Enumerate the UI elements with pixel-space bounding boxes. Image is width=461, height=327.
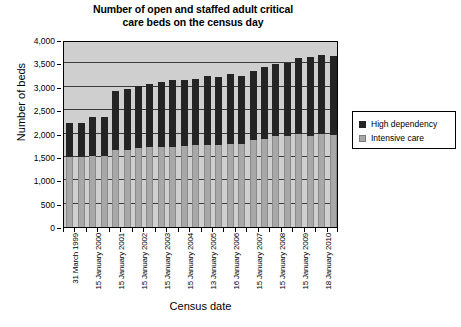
bar-segment-high-dependency: [89, 117, 96, 157]
x-axis-tick-mark: [86, 228, 87, 232]
x-axis-tick-mark: [201, 228, 202, 232]
bar-column: [284, 63, 291, 227]
bar-column: [146, 84, 153, 227]
x-axis-title: Census date: [63, 300, 338, 312]
y-axis-tick-label: 3,500: [34, 59, 55, 69]
x-axis-tick-label: 15 January 2004: [186, 233, 195, 290]
x-axis-tick-label: 15 January 2003: [163, 233, 172, 290]
chart-title-line-2: care beds on the census day: [48, 16, 338, 29]
light-square-swatch-icon: [359, 135, 366, 142]
bar-segment-intensive-care: [89, 156, 96, 227]
x-axis-tick-mark: [304, 228, 305, 232]
bar-column: [307, 57, 314, 227]
x-axis-tick-mark: [327, 228, 328, 232]
bar-segment-intensive-care: [307, 136, 314, 227]
legend-item-intensive-care: Intensive care: [359, 133, 451, 143]
x-axis-tick-label: 31 March 1999: [71, 233, 80, 284]
bar-segment-intensive-care: [192, 145, 199, 227]
bar-column: [227, 74, 234, 227]
chart-title-line-1: Number of open and staffed adult critica…: [48, 3, 338, 16]
x-axis-tick-mark: [74, 228, 75, 232]
bar-segment-high-dependency: [295, 58, 302, 134]
y-axis-labels: 4,0003,5003,0002,5002,0001,5001,0005000: [0, 41, 61, 228]
bar-column: [135, 86, 142, 227]
x-axis-tick-mark: [132, 228, 133, 232]
bar-segment-high-dependency: [318, 55, 325, 134]
bar-segment-intensive-care: [101, 156, 108, 227]
bar-column: [101, 117, 108, 227]
y-axis-tick-mark: [57, 158, 61, 159]
bar-segment-intensive-care: [295, 134, 302, 227]
bar-column: [330, 56, 337, 227]
x-axis-tick-label: 15 January 2009: [301, 233, 310, 290]
x-axis-tick-mark: [143, 228, 144, 232]
bar-column: [112, 91, 119, 227]
chart-title: Number of open and staffed adult critica…: [48, 3, 338, 29]
y-axis-tick-mark: [57, 205, 61, 206]
legend-label: High dependency: [371, 119, 437, 129]
bar-segment-high-dependency: [66, 123, 73, 157]
y-axis-tick-label: 1,500: [34, 153, 55, 163]
x-axis-labels: 31 March 199915 January 200015 January 2…: [63, 233, 338, 295]
bar-column: [89, 117, 96, 227]
x-axis-tick-mark: [97, 228, 98, 232]
x-axis-tick-mark: [189, 228, 190, 232]
x-axis-tick-mark: [212, 228, 213, 232]
bar-segment-intensive-care: [169, 147, 176, 227]
bar-segment-high-dependency: [204, 76, 211, 145]
bar-column: [295, 58, 302, 227]
bar-segment-intensive-care: [284, 136, 291, 227]
x-axis-tick-label: 15 January 2002: [140, 233, 149, 290]
y-axis-tick-mark: [57, 181, 61, 182]
bars-layer: [64, 42, 337, 227]
x-axis-tick-label: 15 January 2007: [255, 233, 264, 290]
y-axis-tick-mark: [57, 111, 61, 112]
x-axis-tick-mark: [258, 228, 259, 232]
bar-segment-high-dependency: [181, 80, 188, 146]
bar-column: [215, 77, 222, 227]
x-axis-tick-label: 15 January 2001: [117, 233, 126, 290]
y-axis-tick-label: 2,000: [34, 130, 55, 140]
x-axis-tick-mark: [337, 228, 338, 232]
y-axis-tick-label: 0: [50, 223, 55, 233]
x-axis-tick-label: 15 January 2000: [94, 233, 103, 290]
bar-column: [169, 80, 176, 227]
bar-column: [181, 80, 188, 227]
bar-segment-high-dependency: [250, 71, 257, 140]
bar-column: [192, 79, 199, 227]
bar-segment-intensive-care: [238, 144, 245, 227]
bar-column: [261, 67, 268, 227]
bar-segment-high-dependency: [227, 74, 234, 144]
x-axis-tick-mark: [269, 228, 270, 232]
bar-segment-high-dependency: [146, 84, 153, 147]
bar-segment-intensive-care: [78, 157, 85, 227]
x-axis-tick-mark: [166, 228, 167, 232]
y-axis-tick-label: 2,500: [34, 106, 55, 116]
x-axis-tick-label: 18 January 2010: [324, 233, 333, 290]
bar-segment-intensive-care: [181, 146, 188, 227]
bar-segment-high-dependency: [330, 56, 337, 135]
bar-segment-intensive-care: [124, 150, 131, 227]
x-axis-tick-label: 15 January 2008: [278, 233, 287, 290]
x-axis-tick-mark: [223, 228, 224, 232]
legend-label: Intensive care: [371, 133, 424, 143]
x-axis-tick-mark: [235, 228, 236, 232]
bar-segment-high-dependency: [192, 79, 199, 145]
legend-item-high-dependency: High dependency: [359, 119, 451, 129]
bar-segment-high-dependency: [215, 77, 222, 145]
bar-column: [272, 64, 279, 227]
bar-column: [318, 55, 325, 227]
bar-segment-high-dependency: [135, 86, 142, 148]
bar-segment-high-dependency: [261, 67, 268, 139]
x-axis-tick-label: 16 January 2006: [232, 233, 241, 290]
bar-segment-high-dependency: [78, 123, 85, 157]
dark-square-swatch-icon: [359, 121, 366, 128]
bar-segment-high-dependency: [307, 57, 314, 136]
bar-column: [66, 123, 73, 227]
y-axis-tick-label: 4,000: [34, 36, 55, 46]
chart-legend: High dependency Intensive care: [352, 111, 456, 149]
x-axis-tick-mark: [178, 228, 179, 232]
bar-segment-high-dependency: [101, 117, 108, 156]
y-axis-tick-label: 500: [41, 200, 55, 210]
bar-segment-intensive-care: [330, 135, 337, 227]
